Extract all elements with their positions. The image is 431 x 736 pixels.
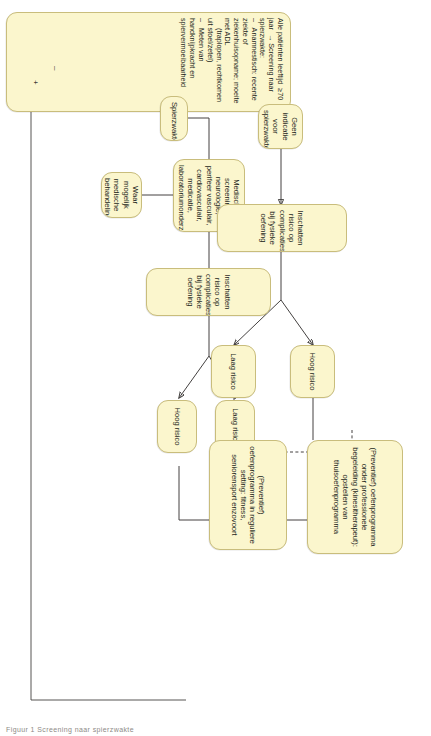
node-hoog-risico-bottom-label: Hoog risico bbox=[172, 406, 181, 447]
node-screening-label: Alle patiënten leeftijd ≥70 jaar → Scree… bbox=[179, 18, 286, 106]
figure-caption: Figuur 1 Screening naar spierzwakte bbox=[6, 726, 134, 733]
node-prog-regulier[interactable]: (Preventief) oefenprogramma in reguliere… bbox=[209, 440, 287, 550]
node-medische-behandeling-label: Waar mogelijk medische behandeling bbox=[103, 178, 140, 212]
node-hoog-risico-bottom[interactable]: Hoog risico bbox=[157, 400, 197, 453]
node-screening[interactable]: Alle patiënten leeftijd ≥70 jaar → Scree… bbox=[6, 12, 291, 112]
node-spierzwakte[interactable]: Spierzwakte bbox=[160, 96, 188, 141]
node-hoog-risico-top-label: Hoog risico bbox=[308, 351, 317, 392]
wire-risico-top-to-hoog bbox=[281, 300, 313, 345]
marker-plus: + bbox=[31, 80, 39, 85]
node-geen-indicatie[interactable]: Geen indicatie voor spierzwakte bbox=[258, 104, 303, 149]
node-prog-professioneel[interactable]: (Preventief) oefenprogramma onder profes… bbox=[307, 440, 403, 554]
node-risico-top-label: Inschatten risico op complicaties bij fy… bbox=[259, 210, 305, 246]
node-spierzwakte-label: Spierzwakte bbox=[169, 102, 178, 135]
node-laag-risico-top-label: Laag risico bbox=[229, 351, 238, 392]
wire-risico-bottom-to-hoog bbox=[179, 356, 209, 398]
node-risico-top[interactable]: Inschatten risico op complicaties bij fy… bbox=[217, 204, 347, 252]
marker-minus: – bbox=[51, 66, 59, 70]
node-hoog-risico-top[interactable]: Hoog risico bbox=[290, 345, 335, 398]
node-prog-regulier-label: (Preventief) oefenprogramma in reguliere… bbox=[230, 446, 267, 544]
node-medische-behandeling[interactable]: Waar mogelijk medische behandeling bbox=[101, 172, 142, 218]
node-laag-risico-top[interactable]: Laag risico bbox=[211, 345, 256, 398]
flowchart-canvas: Alle patiënten leeftijd ≥70 jaar → Scree… bbox=[0, 0, 431, 736]
node-geen-indicatie-label: Geen indicatie voor spierzwakte bbox=[262, 110, 299, 143]
node-prog-professioneel-label: (Preventief) oefenprogramma onder profes… bbox=[332, 446, 378, 548]
caption-strip: Figuur 1 Screening naar spierzwakte bbox=[0, 712, 431, 736]
wire-return-loop bbox=[31, 60, 203, 700]
node-risico-bottom[interactable]: Inschatten risico op complicaties bij fy… bbox=[146, 268, 271, 316]
node-risico-bottom-label: Inschatten risico op complicaties bij fy… bbox=[185, 274, 231, 310]
